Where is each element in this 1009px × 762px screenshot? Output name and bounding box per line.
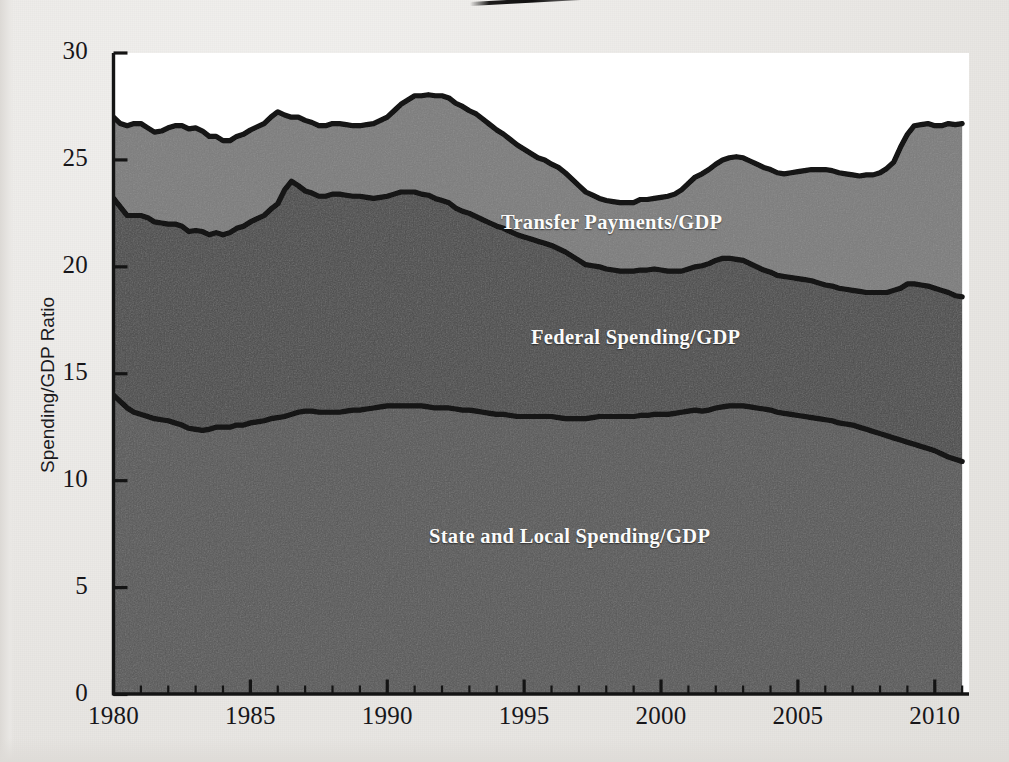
x-tick-label-2005: 2005 xyxy=(743,702,853,730)
y-tick-label-5: 5 xyxy=(42,572,88,600)
y-tick-label-30: 30 xyxy=(42,37,88,65)
series-label-state-local-spending: State and Local Spending/GDP xyxy=(429,525,710,548)
x-tick-label-2010: 2010 xyxy=(880,702,990,730)
series-label-federal-spending: Federal Spending/GDP xyxy=(531,326,740,349)
x-tick-label-1990: 1990 xyxy=(332,702,442,730)
x-tick-label-2000: 2000 xyxy=(606,702,716,730)
x-tick-label-1995: 1995 xyxy=(469,702,579,730)
x-tick-label-1980: 1980 xyxy=(59,702,169,730)
y-axis-title: Spending/GDP Ratio xyxy=(37,275,59,495)
stacked-area-chart: 051015202530 198019851990199520002005201… xyxy=(0,0,1009,762)
chart-plot-svg xyxy=(0,0,1009,762)
y-tick-label-25: 25 xyxy=(42,144,88,172)
series-label-transfer-payments: Transfer Payments/GDP xyxy=(501,211,722,234)
x-tick-label-1985: 1985 xyxy=(195,702,305,730)
